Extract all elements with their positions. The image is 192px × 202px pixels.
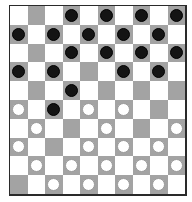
board-square-r1-c4[interactable] xyxy=(80,25,98,44)
board-square-r5-c9 xyxy=(168,100,186,119)
board-square-r8-c2 xyxy=(45,156,63,175)
white-piece-icon[interactable] xyxy=(30,122,43,135)
board-square-r7-c4[interactable] xyxy=(80,138,98,157)
board-square-r9-c2[interactable] xyxy=(45,175,63,194)
board-square-r7-c0[interactable] xyxy=(10,138,28,157)
board-square-r0-c9[interactable] xyxy=(168,6,186,25)
board-square-r9-c4[interactable] xyxy=(80,175,98,194)
board-square-r2-c5[interactable] xyxy=(98,44,116,63)
board-square-r1-c2[interactable] xyxy=(45,25,63,44)
board-square-r4-c7[interactable] xyxy=(133,81,151,100)
board-square-r3-c2[interactable] xyxy=(45,62,63,81)
white-piece-icon[interactable] xyxy=(100,159,113,172)
black-piece-icon[interactable] xyxy=(117,28,130,41)
white-piece-icon[interactable] xyxy=(117,103,130,116)
board-square-r0-c1[interactable] xyxy=(28,6,46,25)
black-piece-icon[interactable] xyxy=(47,65,60,78)
white-piece-icon[interactable] xyxy=(135,159,148,172)
board-square-r7-c1 xyxy=(28,138,46,157)
board-square-r7-c6[interactable] xyxy=(115,138,133,157)
board-square-r7-c8[interactable] xyxy=(150,138,168,157)
white-piece-icon[interactable] xyxy=(100,122,113,135)
white-piece-icon[interactable] xyxy=(82,178,95,191)
board-square-r6-c3[interactable] xyxy=(63,119,81,138)
board-square-r9-c0[interactable] xyxy=(10,175,28,194)
board-square-r6-c9[interactable] xyxy=(168,119,186,138)
board-square-r1-c8[interactable] xyxy=(150,25,168,44)
white-piece-icon[interactable] xyxy=(117,140,130,153)
board-square-r5-c6[interactable] xyxy=(115,100,133,119)
board-square-r9-c8[interactable] xyxy=(150,175,168,194)
board-square-r0-c5[interactable] xyxy=(98,6,116,25)
white-piece-icon[interactable] xyxy=(65,159,78,172)
board-square-r7-c2[interactable] xyxy=(45,138,63,157)
white-piece-icon[interactable] xyxy=(82,140,95,153)
black-piece-icon[interactable] xyxy=(135,9,148,22)
white-piece-icon[interactable] xyxy=(47,178,60,191)
board-square-r6-c5[interactable] xyxy=(98,119,116,138)
board-square-r5-c2[interactable] xyxy=(45,100,63,119)
black-piece-icon[interactable] xyxy=(47,103,60,116)
board-square-r3-c6[interactable] xyxy=(115,62,133,81)
white-piece-icon[interactable] xyxy=(152,178,165,191)
board-square-r6-c7[interactable] xyxy=(133,119,151,138)
board-square-r4-c1[interactable] xyxy=(28,81,46,100)
white-piece-icon[interactable] xyxy=(117,178,130,191)
board-square-r2-c4 xyxy=(80,44,98,63)
board-square-r2-c7[interactable] xyxy=(133,44,151,63)
board-square-r5-c4[interactable] xyxy=(80,100,98,119)
board-square-r2-c3[interactable] xyxy=(63,44,81,63)
board-square-r8-c3[interactable] xyxy=(63,156,81,175)
black-piece-icon[interactable] xyxy=(82,28,95,41)
black-piece-icon[interactable] xyxy=(135,46,148,59)
board-square-r3-c0[interactable] xyxy=(10,62,28,81)
white-piece-icon[interactable] xyxy=(152,140,165,153)
white-piece-icon[interactable] xyxy=(12,140,25,153)
board-square-r6-c1[interactable] xyxy=(28,119,46,138)
board-square-r0-c3[interactable] xyxy=(63,6,81,25)
board-square-r8-c7[interactable] xyxy=(133,156,151,175)
board-square-r2-c1[interactable] xyxy=(28,44,46,63)
board-square-r0-c7[interactable] xyxy=(133,6,151,25)
black-piece-icon[interactable] xyxy=(117,65,130,78)
board-square-r3-c4[interactable] xyxy=(80,62,98,81)
board-square-r1-c0[interactable] xyxy=(10,25,28,44)
black-piece-icon[interactable] xyxy=(12,65,25,78)
black-piece-icon[interactable] xyxy=(47,28,60,41)
black-piece-icon[interactable] xyxy=(65,46,78,59)
black-piece-icon[interactable] xyxy=(12,28,25,41)
white-piece-icon[interactable] xyxy=(82,103,95,116)
board-square-r0-c6 xyxy=(115,6,133,25)
black-piece-icon[interactable] xyxy=(152,65,165,78)
board-square-r2-c9[interactable] xyxy=(168,44,186,63)
black-piece-icon[interactable] xyxy=(100,9,113,22)
board-square-r9-c6[interactable] xyxy=(115,175,133,194)
board-square-r8-c9[interactable] xyxy=(168,156,186,175)
white-piece-icon[interactable] xyxy=(12,103,25,116)
black-piece-icon[interactable] xyxy=(170,9,183,22)
board-square-r7-c5 xyxy=(98,138,116,157)
board-square-r8-c5[interactable] xyxy=(98,156,116,175)
black-piece-icon[interactable] xyxy=(65,9,78,22)
board-square-r1-c9 xyxy=(168,25,186,44)
board-square-r8-c1[interactable] xyxy=(28,156,46,175)
board-square-r1-c6[interactable] xyxy=(115,25,133,44)
board-square-r4-c3[interactable] xyxy=(63,81,81,100)
board-square-r5-c3 xyxy=(63,100,81,119)
board-square-r4-c0 xyxy=(10,81,28,100)
board-square-r4-c5[interactable] xyxy=(98,81,116,100)
white-piece-icon[interactable] xyxy=(170,122,183,135)
board-square-r5-c0[interactable] xyxy=(10,100,28,119)
board-square-r4-c9[interactable] xyxy=(168,81,186,100)
black-piece-icon[interactable] xyxy=(170,46,183,59)
black-piece-icon[interactable] xyxy=(100,46,113,59)
board-square-r0-c4 xyxy=(80,6,98,25)
white-piece-icon[interactable] xyxy=(170,159,183,172)
board-square-r9-c9 xyxy=(168,175,186,194)
board-square-r3-c8[interactable] xyxy=(150,62,168,81)
white-piece-icon[interactable] xyxy=(30,159,43,172)
board-square-r8-c8 xyxy=(150,156,168,175)
black-piece-icon[interactable] xyxy=(152,28,165,41)
black-piece-icon[interactable] xyxy=(65,84,78,97)
board-square-r5-c8[interactable] xyxy=(150,100,168,119)
